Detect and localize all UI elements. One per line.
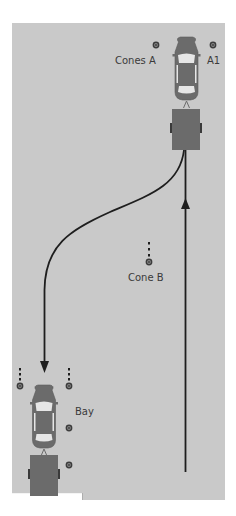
- car-icon: [173, 37, 201, 108]
- trailer-icon: [170, 109, 202, 150]
- label-a1: A1: [207, 56, 220, 66]
- label-bay: Bay: [75, 407, 94, 417]
- cone-icon: [66, 462, 73, 469]
- trailer-reversing-diagram: Cones A A1 Cone B Bay: [0, 0, 236, 516]
- label-cone-b: Cone B: [128, 273, 164, 283]
- cone-icon: [153, 42, 160, 49]
- diagram-canvas: [0, 0, 236, 516]
- label-cones-a: Cones A: [115, 56, 156, 66]
- end-car-trailer: [28, 385, 60, 496]
- cone-icon: [66, 383, 73, 390]
- cone-icon: [146, 259, 153, 266]
- trailer-icon: [28, 455, 60, 496]
- car-icon: [30, 385, 58, 456]
- cone-icon: [17, 383, 24, 390]
- start-car-trailer: [170, 37, 202, 150]
- cone-icon: [66, 425, 73, 432]
- cone-icon: [210, 42, 217, 49]
